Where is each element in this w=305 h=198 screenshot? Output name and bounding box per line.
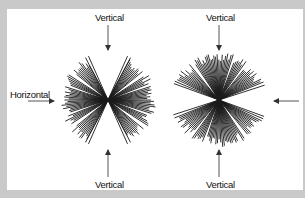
label-horizontal: Horizontal — [10, 89, 50, 100]
label-vertical-top-left: Vertical — [95, 12, 124, 23]
label-vertical-bottom-right: Vertical — [206, 179, 235, 190]
label-vertical-top-right: Vertical — [206, 12, 235, 23]
vertical-star-right — [173, 54, 264, 147]
horizontal-star-left — [62, 56, 156, 144]
label-vertical-bottom-left: Vertical — [95, 179, 124, 190]
